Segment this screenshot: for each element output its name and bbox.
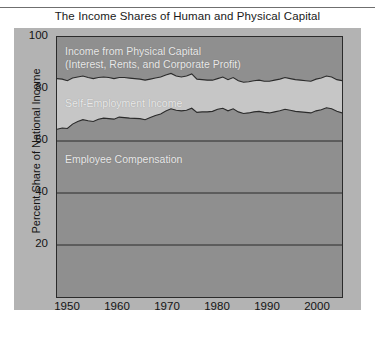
band-label-physical-line1: Income from Physical Capital bbox=[65, 45, 201, 57]
x-tick-2000: 2000 bbox=[287, 300, 347, 312]
stacked-area-svg bbox=[57, 37, 342, 297]
y-tick-20: 20 bbox=[18, 237, 48, 249]
y-axis-label: Percent Share of National Income bbox=[30, 31, 42, 271]
figure-root: The Income Shares of Human and Physical … bbox=[0, 0, 375, 346]
top-divider-rule bbox=[0, 7, 375, 8]
plot-area: Income from Physical Capital (Interest, … bbox=[56, 36, 343, 298]
band-employee-compensation bbox=[57, 108, 342, 297]
chart-title: The Income Shares of Human and Physical … bbox=[14, 10, 361, 22]
y-tick-40: 40 bbox=[18, 185, 48, 197]
band-label-employee-compensation: Employee Compensation bbox=[65, 153, 182, 165]
band-label-self-employment: Self-Employment Income bbox=[65, 97, 182, 109]
band-label-physical-line2: (Interest, Rents, and Corporate Profit) bbox=[65, 58, 241, 70]
y-tick-80: 80 bbox=[18, 81, 48, 93]
y-tick-100: 100 bbox=[18, 29, 48, 41]
band-label-physical-capital: Income from Physical Capital (Interest, … bbox=[65, 45, 241, 71]
y-tick-60: 60 bbox=[18, 133, 48, 145]
